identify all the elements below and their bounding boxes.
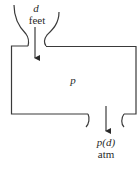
tank-diagram: d feet p p(d) atm <box>0 0 139 169</box>
inlet-funnel-right-wall <box>45 12 59 46</box>
inlet-unit-label: feet <box>29 14 45 26</box>
outlet-unit-label: atm <box>98 148 115 160</box>
tank-label: p <box>69 74 76 86</box>
tank-outline-right <box>46 47 136 115</box>
outlet-left-lip <box>86 114 89 127</box>
inlet-variable-label: d <box>33 2 39 14</box>
outlet-right-lip <box>122 114 124 127</box>
tank-outline <box>12 46 89 114</box>
inlet-funnel-left-wall <box>14 5 29 46</box>
